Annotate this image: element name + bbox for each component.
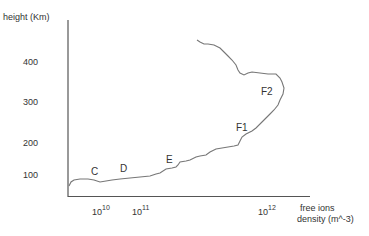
region-label-f2: F2 [261, 86, 273, 97]
chart-canvas [0, 0, 369, 236]
x-tick-1e12: 1012 [258, 204, 276, 217]
y-tick-400: 400 [8, 57, 38, 67]
x-tick-1e11: 1011 [132, 204, 149, 217]
x-tick-base: 10 [92, 207, 102, 217]
x-axis-label-line1: free ions [297, 203, 354, 214]
x-tick-base: 10 [132, 207, 142, 217]
x-tick-exponent: 12 [268, 204, 276, 211]
x-axis-label: free ions density (m^-3) [297, 203, 354, 225]
x-axis-label-line2: density (m^-3) [297, 214, 354, 225]
region-label-c: C [91, 166, 98, 177]
y-tick-300: 300 [8, 97, 38, 107]
y-tick-200: 200 [8, 138, 38, 148]
x-tick-exponent: 11 [142, 204, 149, 211]
y-axis-label: height (Km) [3, 12, 50, 22]
x-tick-exponent: 10 [102, 204, 110, 211]
region-label-d: D [120, 163, 127, 174]
y-tick-100: 100 [8, 170, 38, 180]
x-tick-base: 10 [258, 207, 268, 217]
density-profile-curve [69, 40, 284, 186]
region-label-f1: F1 [236, 122, 248, 133]
x-tick-1e10: 1010 [92, 204, 110, 217]
region-label-e: E [166, 154, 173, 165]
